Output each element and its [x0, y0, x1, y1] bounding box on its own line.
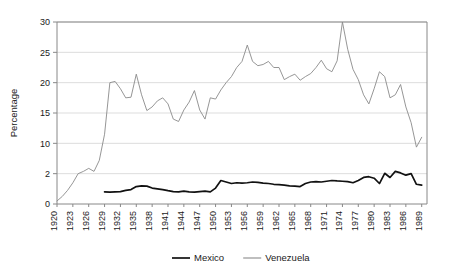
x-tick-label: 1983 [382, 211, 392, 231]
x-tick-label: 1938 [144, 211, 154, 231]
x-tick-label: 1974 [334, 211, 344, 231]
y-tick-label: 2 [45, 169, 50, 179]
y-tick-label: 0 [45, 199, 50, 209]
y-tick-label: 10 [40, 139, 50, 149]
x-tick-label: 1971 [319, 211, 329, 231]
x-tick-label: 1956 [239, 211, 249, 231]
y-tick-label: 20 [40, 78, 50, 88]
y-tick-label: 30 [40, 17, 50, 27]
legend-label-mexico: Mexico [194, 252, 224, 263]
legend-label-venezuela: Venezuela [265, 252, 310, 263]
x-tick-label: 1944 [176, 211, 186, 231]
x-tick-label: 1968 [303, 211, 313, 231]
chart-canvas: 021015202530 192019231926192919321935193… [0, 0, 451, 272]
y-tick-label: 25 [40, 48, 50, 58]
x-tick-label: 1980 [366, 211, 376, 231]
x-tick-label: 1926 [81, 211, 91, 231]
y-axis-title: Percentage [8, 89, 19, 138]
x-tick-label: 1941 [160, 211, 170, 231]
x-tick-label: 1932 [112, 211, 122, 231]
x-tick-label: 1947 [192, 211, 202, 231]
x-tick-label: 1920 [49, 211, 59, 231]
x-tick-label: 1959 [255, 211, 265, 231]
x-tick-label: 1950 [208, 211, 218, 231]
line-chart: 021015202530 192019231926192919321935193… [0, 0, 451, 272]
x-tick-label: 1953 [223, 211, 233, 231]
x-tick-label: 1986 [398, 211, 408, 231]
x-tick-label: 1989 [414, 211, 424, 231]
x-tick-label: 1962 [271, 211, 281, 231]
x-tick-label: 1977 [350, 211, 360, 231]
x-tick-label: 1935 [128, 211, 138, 231]
y-tick-label: 15 [40, 108, 50, 118]
x-tick-label: 1929 [97, 211, 107, 231]
x-tick-label: 1965 [287, 211, 297, 231]
x-tick-label: 1923 [65, 211, 75, 231]
